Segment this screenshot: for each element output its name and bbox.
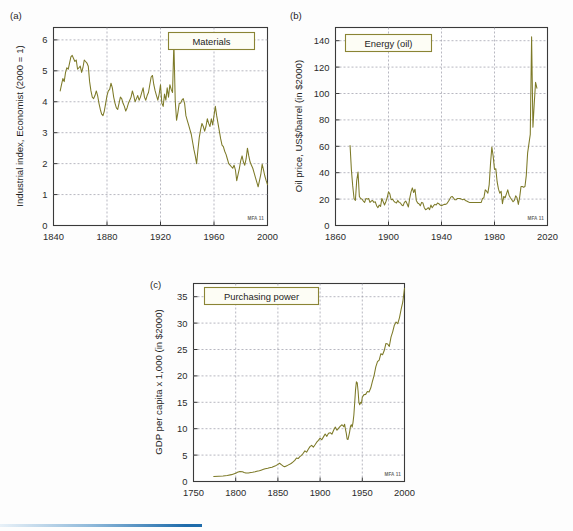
y-tick-label: 6 <box>42 34 47 45</box>
x-tick-label: 2020 <box>537 231 558 242</box>
y-tick-label: 30 <box>177 318 187 329</box>
y-tick-label: 40 <box>319 167 329 178</box>
panel-materials: (a) 0123456 18401880192019602000 Industr… <box>8 6 280 260</box>
panel-b-letter: (b) <box>290 10 302 21</box>
panel-c-legend-label: Purchasing power <box>224 291 299 302</box>
x-tick-label: 1900 <box>378 231 399 242</box>
panel-a-x-tick-labels: 18401880192019602000 <box>43 231 278 242</box>
y-tick-label: 4 <box>42 96 47 107</box>
y-tick-label: 0 <box>182 476 187 487</box>
panel-b-credit: MFA 11 <box>527 216 544 221</box>
panel-b-y-tick-labels: 020406080100120140 <box>314 35 330 231</box>
panel-c-credit: MFA 11 <box>384 472 401 477</box>
panel-purchasing-power: (c) 05101520253035 175018001850190019502… <box>148 268 423 518</box>
panel-a-credit: MFA 11 <box>247 216 264 221</box>
y-tick-label: 5 <box>42 65 47 76</box>
x-tick-label: 1960 <box>204 231 225 242</box>
x-tick-label: 1940 <box>431 231 452 242</box>
y-tick-label: 3 <box>42 127 47 138</box>
x-tick-label: 2000 <box>257 231 278 242</box>
y-tick-label: 80 <box>319 114 329 125</box>
panel-c-x-tick-labels: 175018001850190019502000 <box>183 487 415 498</box>
x-tick-label: 1880 <box>97 231 118 242</box>
panel-c-letter: (c) <box>150 279 161 290</box>
x-tick-label: 1860 <box>325 231 346 242</box>
x-tick-label: 1850 <box>267 487 288 498</box>
y-tick-label: 100 <box>314 88 330 99</box>
panel-b-x-tick-labels: 18601900194019802020 <box>325 231 558 242</box>
chart-b-svg: (b) 020406080100120140 18601900194019802… <box>288 6 568 260</box>
x-tick-label: 2000 <box>394 487 415 498</box>
panel-a-plot <box>54 28 268 226</box>
panel-c-legend: Purchasing power <box>205 288 319 305</box>
panel-b-y-axis-title: Oil price, US$/barrel (in $2000) <box>293 60 304 192</box>
panel-a-legend: Materials <box>169 33 255 50</box>
panel-b-legend-label: Energy (oil) <box>365 38 413 49</box>
x-tick-label: 1900 <box>310 487 331 498</box>
y-tick-label: 20 <box>177 370 187 381</box>
figure-page: (a) 0123456 18401880192019602000 Industr… <box>0 0 573 531</box>
panel-a-y-tick-labels: 0123456 <box>42 34 47 231</box>
chart-c-svg: (c) 05101520253035 175018001850190019502… <box>148 268 423 518</box>
panel-a-y-axis-title: Industrial index, Economist (2000 = 1) <box>14 45 25 206</box>
x-tick-label: 1980 <box>484 231 505 242</box>
y-tick-label: 25 <box>177 344 187 355</box>
panel-c-plot <box>194 284 405 482</box>
chart-a-svg: (a) 0123456 18401880192019602000 Industr… <box>8 6 280 260</box>
panel-c-y-axis-title: GDP per capita x 1,000 (in $2000) <box>153 309 164 454</box>
x-tick-label: 1750 <box>183 487 204 498</box>
y-tick-label: 120 <box>314 62 330 73</box>
panel-a-letter: (a) <box>10 10 22 21</box>
y-tick-label: 15 <box>177 397 187 408</box>
panel-energy-oil: (b) 020406080100120140 18601900194019802… <box>288 6 568 260</box>
panel-c-y-tick-labels: 05101520253035 <box>177 291 187 487</box>
y-tick-label: 20 <box>319 194 329 205</box>
panel-c-frame <box>194 284 405 482</box>
x-tick-label: 1950 <box>352 487 373 498</box>
page-bottom-rule <box>0 524 202 527</box>
panel-a-legend-label: Materials <box>192 36 230 47</box>
y-tick-label: 1 <box>42 189 47 200</box>
y-tick-label: 0 <box>324 220 329 231</box>
y-tick-label: 60 <box>319 141 329 152</box>
x-tick-label: 1920 <box>150 231 171 242</box>
panel-b-plot <box>336 28 548 226</box>
x-tick-label: 1800 <box>225 487 246 498</box>
x-tick-label: 1840 <box>43 231 64 242</box>
y-tick-label: 10 <box>177 423 187 434</box>
panel-b-legend: Energy (oil) <box>346 35 432 52</box>
y-tick-label: 0 <box>42 220 47 231</box>
y-tick-label: 35 <box>177 291 187 302</box>
y-tick-label: 2 <box>42 158 47 169</box>
y-tick-label: 140 <box>314 35 330 46</box>
y-tick-label: 5 <box>182 450 187 461</box>
